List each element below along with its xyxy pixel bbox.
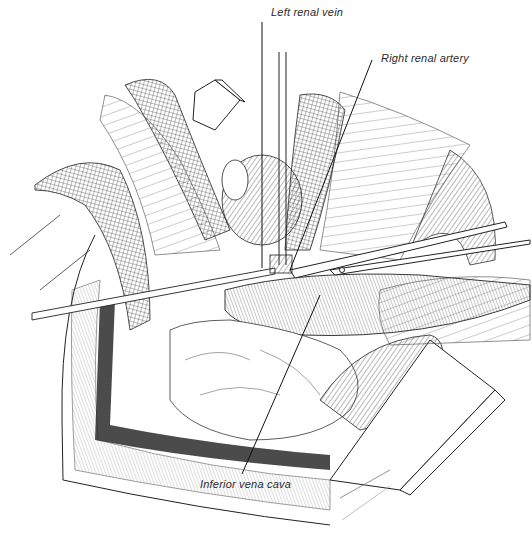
label-left-renal-vein: Left renal vein bbox=[271, 6, 343, 18]
vessel-loop bbox=[270, 255, 292, 273]
surgical-drawing bbox=[0, 0, 532, 535]
upper-retractor bbox=[193, 80, 245, 130]
illustration: Left renal vein Right renal artery Infer… bbox=[0, 0, 532, 535]
label-inferior-vena-cava: Inferior vena cava bbox=[200, 478, 291, 490]
right-lower-wall bbox=[379, 277, 530, 345]
small-bulge bbox=[222, 160, 248, 200]
bowel-loops bbox=[170, 320, 358, 440]
label-right-renal-artery: Right renal artery bbox=[381, 52, 469, 64]
